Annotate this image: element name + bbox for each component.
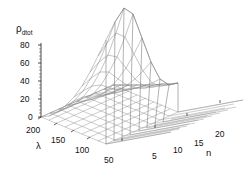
z-axis-label: ρdtot (16, 24, 33, 37)
lambda-axis-label: λ (36, 141, 41, 151)
figure-3d-surface-plot: ρdtot 80 60 40 20 0 200 150 100 50 λ 5 1… (0, 0, 247, 179)
surface-front-skirt (106, 8, 178, 144)
z-tick-20: 20 (20, 95, 29, 104)
n-axis-label: n (206, 148, 211, 158)
lambda-tick-100: 100 (75, 146, 89, 155)
z-tick-40: 40 (20, 77, 29, 86)
n-tick-5: 5 (152, 152, 157, 161)
n-tick-10: 10 (173, 146, 182, 155)
z-tick-0: 0 (28, 113, 33, 122)
z-tick-80: 80 (20, 41, 29, 50)
z-tick-60: 60 (20, 59, 29, 68)
lambda-tick-150: 150 (51, 136, 65, 145)
z-axis-subscript: dtot (22, 29, 33, 36)
n-tick-15: 15 (194, 139, 203, 148)
floor-grid (41, 85, 243, 144)
lambda-tick-200: 200 (26, 126, 40, 135)
n-tick-20: 20 (215, 130, 224, 139)
lambda-tick-50: 50 (104, 156, 113, 165)
